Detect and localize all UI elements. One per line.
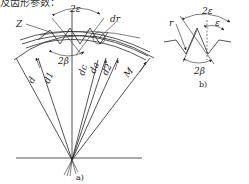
label-epsilon-b: ε <box>215 18 220 28</box>
label-d: d <box>26 75 38 85</box>
label-two-epsilon: 2ε <box>69 4 81 14</box>
label-two-beta: 2β <box>57 56 69 66</box>
flank-line-right <box>76 18 104 55</box>
two-beta-arc-b <box>186 60 212 63</box>
arc-2 <box>20 31 150 52</box>
flank-line-left <box>52 18 82 55</box>
dr-leader <box>99 22 116 38</box>
label-dr: dr <box>110 14 121 24</box>
label-two-beta-b: 2β <box>193 66 205 76</box>
r-leader <box>176 24 186 50</box>
figure-a: 2ε Z dr 2β d d1 dc da d2 M a) <box>14 4 154 182</box>
label-d1: d1 <box>42 70 56 85</box>
z-leader <box>26 24 50 32</box>
radial-d1 <box>38 58 72 160</box>
label-two-epsilon-b: 2ε <box>201 6 213 16</box>
label-r-b: r <box>169 18 174 28</box>
gear-tooth-diagram: 2ε Z dr 2β d d1 dc da d2 M a) 2ε ε r 2β … <box>0 0 249 184</box>
caption-a: a) <box>76 173 84 182</box>
label-Z: Z <box>15 19 23 29</box>
outer-circle-arc <box>14 35 154 60</box>
label-d2: d2 <box>100 62 114 77</box>
figure-b: 2ε ε r 2β b) <box>164 6 231 89</box>
label-M: M <box>121 65 136 80</box>
caption-b: b) <box>199 80 207 89</box>
